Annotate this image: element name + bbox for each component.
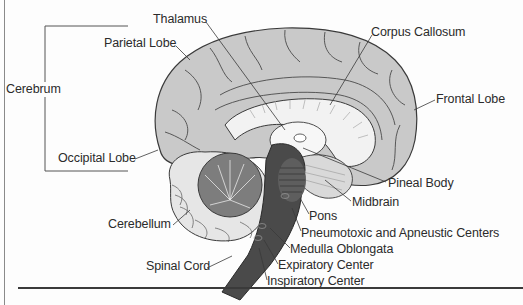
label-cerebellum: Cerebellum — [108, 218, 171, 231]
brain-diagram: Cerebrum Thalamus Parietal Lobe Corpus C… — [0, 0, 523, 305]
label-expiratory-center: Expiratory Center — [278, 259, 374, 272]
label-frontal-lobe: Frontal Lobe — [436, 93, 505, 106]
frame-bottom-rule — [18, 287, 523, 289]
label-cerebrum: Cerebrum — [6, 83, 61, 96]
label-pineal-body: Pineal Body — [388, 177, 454, 190]
label-occipital-lobe: Occipital Lobe — [58, 152, 136, 165]
label-parietal-lobe: Parietal Lobe — [104, 37, 176, 50]
label-spinal-cord: Spinal Cord — [146, 260, 210, 273]
label-corpus-callosum: Corpus Callosum — [371, 26, 465, 39]
label-thalamus: Thalamus — [153, 13, 207, 26]
label-medulla-oblongata: Medulla Oblongata — [290, 243, 393, 256]
cerebellum-shape — [169, 152, 269, 242]
label-pons: Pons — [309, 210, 337, 223]
label-pneumotoxic-apneustic-centers: Pneumotoxic and Apneustic Centers — [301, 227, 499, 240]
label-midbrain: Midbrain — [352, 196, 399, 209]
